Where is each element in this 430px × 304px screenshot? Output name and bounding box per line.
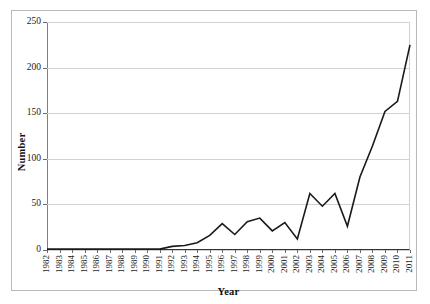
y-tick-label: 200	[27, 63, 41, 73]
x-tick-label: 1990	[142, 255, 151, 273]
x-tick-mark	[72, 250, 73, 253]
x-tick-mark	[310, 250, 311, 253]
x-tick-mark	[110, 250, 111, 253]
x-tick-label: 2002	[292, 255, 301, 273]
x-tick-mark	[135, 250, 136, 253]
x-tick-label: 1993	[180, 255, 189, 273]
x-tick-mark	[297, 250, 298, 253]
x-tick-mark	[160, 250, 161, 253]
x-tick-mark	[322, 250, 323, 253]
y-tick-label: 0	[36, 245, 41, 255]
x-tick-label: 1989	[130, 255, 139, 273]
x-tick-mark	[285, 250, 286, 253]
x-tick-label: 1994	[192, 255, 201, 273]
x-tick-label: 1992	[167, 255, 176, 273]
x-tick-label: 1988	[117, 255, 126, 273]
x-tick-mark	[235, 250, 236, 253]
x-tick-label: 1997	[230, 255, 239, 273]
x-tick-mark	[335, 250, 336, 253]
y-tick-label: 250	[27, 17, 41, 27]
x-tick-mark	[147, 250, 148, 253]
x-tick-label: 2000	[267, 255, 276, 273]
x-tick-label: 2009	[380, 255, 389, 273]
x-tick-mark	[47, 250, 48, 253]
x-tick-mark	[272, 250, 273, 253]
y-tick-label: 100	[27, 154, 41, 164]
x-tick-mark	[172, 250, 173, 253]
x-tick-label: 2008	[367, 255, 376, 273]
x-tick-label: 1995	[205, 255, 214, 273]
gridline	[47, 250, 410, 251]
y-tick-label: 50	[32, 200, 42, 210]
x-tick-label: 1987	[105, 255, 114, 273]
x-tick-label: 2011	[405, 255, 414, 273]
x-tick-label: 2006	[342, 255, 351, 273]
x-tick-label: 1991	[155, 255, 164, 273]
line-series	[47, 22, 410, 250]
x-axis-title: Year	[47, 286, 410, 297]
x-tick-mark	[385, 250, 386, 253]
x-tick-mark	[260, 250, 261, 253]
x-tick-mark	[360, 250, 361, 253]
x-tick-label: 1986	[92, 255, 101, 273]
x-tick-mark	[372, 250, 373, 253]
x-tick-label: 1999	[255, 255, 264, 273]
x-tick-mark	[247, 250, 248, 253]
x-tick-mark	[60, 250, 61, 253]
x-tick-mark	[197, 250, 198, 253]
x-tick-mark	[122, 250, 123, 253]
y-axis-title: Number	[16, 133, 27, 172]
x-tick-label: 1996	[217, 255, 226, 273]
x-tick-label: 1982	[42, 255, 51, 273]
x-tick-mark	[222, 250, 223, 253]
x-tick-mark	[347, 250, 348, 253]
x-tick-label: 1985	[80, 255, 89, 273]
x-tick-label: 1983	[55, 255, 64, 273]
x-tick-label: 1984	[67, 255, 76, 273]
x-tick-mark	[410, 250, 411, 253]
plot-area: 050100150200250 198219831984198519861987…	[47, 22, 410, 250]
x-tick-label: 2001	[280, 255, 289, 273]
x-tick-mark	[85, 250, 86, 253]
y-tick-label: 150	[27, 108, 41, 118]
x-tick-mark	[97, 250, 98, 253]
x-tick-label: 2003	[305, 255, 314, 273]
x-tick-mark	[185, 250, 186, 253]
x-tick-label: 2007	[355, 255, 364, 273]
chart-figure: Number 050100150200250 19821983198419851…	[0, 0, 430, 304]
x-tick-label: 1998	[242, 255, 251, 273]
x-tick-label: 2004	[317, 255, 326, 273]
x-tick-label: 2010	[392, 255, 401, 273]
x-tick-mark	[397, 250, 398, 253]
x-tick-mark	[210, 250, 211, 253]
x-tick-label: 2005	[330, 255, 339, 273]
